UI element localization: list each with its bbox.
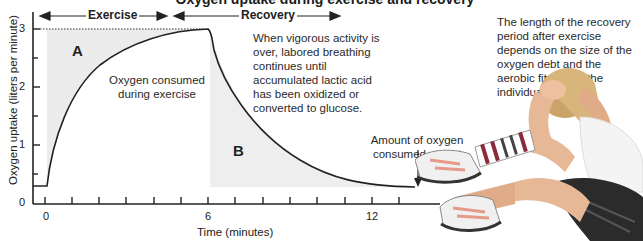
y-tick-1: 1 xyxy=(19,138,25,150)
region-b-label: B xyxy=(233,142,244,159)
sneaker-top xyxy=(415,150,481,182)
y-ticks xyxy=(33,29,40,174)
y-tick-3: 3 xyxy=(19,22,25,34)
x-ticks xyxy=(45,197,399,204)
exercise-phase-label: Exercise xyxy=(86,8,139,22)
x-tick-6: 6 xyxy=(205,210,211,222)
exercise-note: Oxygen consumed during exercise xyxy=(106,73,208,101)
x-tick-12: 12 xyxy=(366,210,378,222)
x-axis-label: Time (minutes) xyxy=(197,226,273,238)
y-axis-label: Oxygen uptake (liters per minute) xyxy=(7,35,19,185)
recovery-note: When vigorous activity is over, labored … xyxy=(253,31,393,115)
recovery-phase-label: Recovery xyxy=(239,8,297,22)
x-tick-0: 0 xyxy=(43,210,49,222)
exhausted-athlete-illustration xyxy=(415,32,643,241)
region-a-label: A xyxy=(72,42,83,59)
striped-leg-warmer xyxy=(475,130,535,167)
y-tick-0: 0 xyxy=(19,196,25,208)
y-tick-2: 2 xyxy=(19,80,25,92)
sneaker-bottom xyxy=(440,196,501,231)
